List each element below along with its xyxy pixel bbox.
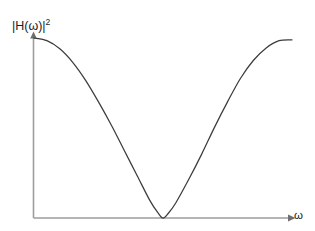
y-axis-label: |H(ω)|2 — [12, 18, 50, 33]
x-axis-label: ω — [294, 210, 303, 222]
y-axis-label-exponent: 2 — [46, 17, 51, 27]
y-axis-label-base: |H(ω)| — [12, 19, 46, 33]
plot-area — [0, 0, 315, 231]
figure-root: |H(ω)|2 ω — [0, 0, 315, 231]
magnitude-response-curve — [34, 38, 292, 218]
